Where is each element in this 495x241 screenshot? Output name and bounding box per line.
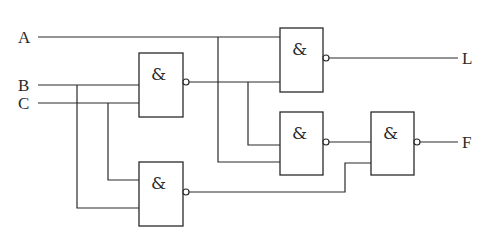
- nand-gate-g4: &: [280, 112, 329, 175]
- input-label-c: C: [18, 94, 29, 113]
- inverter-bubble-icon: [323, 55, 329, 61]
- inverter-bubble-icon: [183, 79, 189, 85]
- output-label-l: L: [462, 49, 472, 68]
- wire-c-branch: [108, 103, 139, 180]
- nand-gate-g5: &: [371, 112, 420, 175]
- gate-symbol: &: [292, 123, 307, 143]
- gate-symbol: &: [292, 39, 307, 59]
- input-label-a: A: [18, 28, 31, 47]
- gate-symbol: &: [151, 64, 166, 84]
- input-label-b: B: [18, 76, 29, 95]
- wire-a-branch: [218, 37, 280, 162]
- nand-gate-g3: &: [280, 28, 329, 92]
- output-label-f: F: [462, 133, 471, 152]
- nand-gate-g1: &: [139, 53, 189, 117]
- inverter-bubble-icon: [414, 139, 420, 145]
- gate-symbol: &: [151, 173, 166, 193]
- logic-circuit-diagram: A B C & & & &: [0, 0, 495, 241]
- gate-symbol: &: [383, 123, 398, 143]
- wire-n1-branch: [248, 82, 280, 145]
- nand-gate-g2: &: [139, 162, 189, 226]
- inverter-bubble-icon: [183, 189, 189, 195]
- inverter-bubble-icon: [323, 139, 329, 145]
